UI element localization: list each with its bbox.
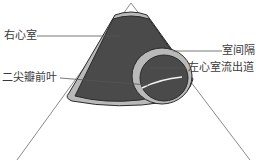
diagram-canvas: [0, 0, 259, 168]
label-right-ventricle: 右心室: [4, 30, 37, 42]
label-ventricular-septum: 室间隔: [222, 45, 255, 57]
label-anterior-mitral-leaflet: 二尖瓣前叶: [2, 72, 57, 84]
lvot-region: [140, 55, 188, 101]
label-lvot: 左心室流出道: [188, 62, 254, 74]
echo-diagram: 右心室 二尖瓣前叶 室间隔 左心室流出道: [0, 0, 259, 168]
